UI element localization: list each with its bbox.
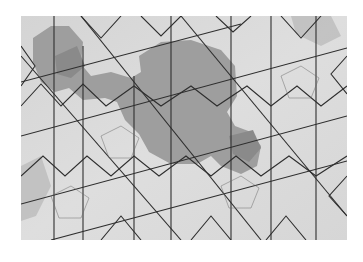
tiling-photo bbox=[21, 16, 347, 240]
girih-pattern-image bbox=[21, 16, 347, 240]
